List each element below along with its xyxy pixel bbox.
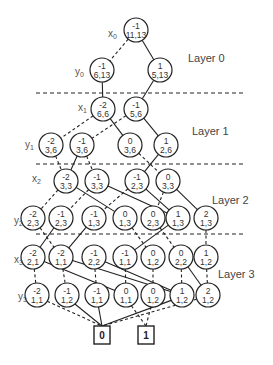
node-value: -1 xyxy=(93,172,101,182)
diagram-node: 21,3 xyxy=(194,206,218,230)
low-edge xyxy=(131,306,146,326)
diagram-node: -23,6 xyxy=(39,133,63,157)
node-value: -1 xyxy=(93,286,101,296)
diagram-node: 11,3 xyxy=(166,206,190,230)
diagram-node: -12,3 xyxy=(125,169,149,193)
high-edge xyxy=(110,119,123,136)
low-edge xyxy=(110,39,128,61)
diagram-node: 03,6 xyxy=(118,133,142,157)
diagram-node: -16,13 xyxy=(90,58,114,82)
node-range: 1,1 xyxy=(31,295,43,305)
node-value: -2 xyxy=(29,209,37,219)
high-edge xyxy=(188,267,201,285)
diagram-node: 15,13 xyxy=(148,58,172,82)
node-value: -2 xyxy=(29,248,37,258)
node-range: 1,1 xyxy=(119,257,131,267)
high-edge xyxy=(145,154,159,171)
node-range: 1,1 xyxy=(91,295,103,305)
diagram-node: -21,1 xyxy=(25,283,49,307)
high-edge xyxy=(69,227,86,248)
node-value: 0 xyxy=(166,172,171,182)
node-value: 0 xyxy=(123,209,128,219)
node-value: -1 xyxy=(132,100,140,110)
diagram-node: -11,2 xyxy=(55,283,79,307)
diagram-node: -11,1 xyxy=(85,283,109,307)
variable-label: y0 xyxy=(75,66,84,78)
decision-diagram: -111,13-16,1315,13-26,6-15,6-23,6-13,603… xyxy=(0,0,273,365)
node-value: -1 xyxy=(98,61,106,71)
node-value: -2 xyxy=(57,248,65,258)
terminal-nodes: 01 xyxy=(94,326,154,344)
svg-text:0: 0 xyxy=(99,330,105,341)
node-range: 3,3 xyxy=(60,181,72,191)
node-value: 2 xyxy=(204,209,209,219)
diagram-node: -22,3 xyxy=(21,206,45,230)
low-edge xyxy=(132,228,146,248)
node-value: 0 xyxy=(151,286,156,296)
node-value: -2 xyxy=(62,172,70,182)
diagram-node: -15,6 xyxy=(124,97,148,121)
diagram-node: 12,6 xyxy=(154,133,178,157)
node-value: 2 xyxy=(206,286,211,296)
diagram-node: -26,6 xyxy=(91,97,115,121)
diagram-node: 21,2 xyxy=(196,283,220,307)
node-range: 3,6 xyxy=(76,145,88,155)
diagram-node: 01,3 xyxy=(113,206,137,230)
node-value: 1 xyxy=(164,136,169,146)
node-range: 2,3 xyxy=(147,218,159,228)
node-range: 1,2 xyxy=(176,295,188,305)
node-value: -2 xyxy=(47,136,55,146)
node-range: 2,2 xyxy=(88,257,100,267)
terminal-1: 1 xyxy=(138,326,154,344)
node-range: 1,3 xyxy=(88,218,100,228)
node-range: 1,2 xyxy=(200,257,212,267)
diagram-node: -21,1 xyxy=(49,245,73,269)
variable-label: x1 xyxy=(78,102,87,114)
node-range: 2,3 xyxy=(55,218,67,228)
node-value: -2 xyxy=(99,100,107,110)
node-value: 1 xyxy=(204,248,209,258)
diagram-node: -22,1 xyxy=(21,245,45,269)
layer-label: Layer 2 xyxy=(212,194,249,206)
low-edge xyxy=(41,190,58,209)
low-edge xyxy=(34,269,35,283)
diagram-node: 01,1 xyxy=(114,283,138,307)
node-value: 1 xyxy=(176,209,181,219)
node-range: 6,13 xyxy=(94,70,111,80)
node-value: -1 xyxy=(78,136,86,146)
node-range: 1,1 xyxy=(120,295,132,305)
node-range: 11,13 xyxy=(126,30,147,40)
node-value: 0 xyxy=(151,209,156,219)
low-edge xyxy=(160,228,174,248)
low-edge xyxy=(56,156,62,170)
low-edge xyxy=(207,269,208,283)
node-range: 6,6 xyxy=(97,109,109,119)
diagram-node: 02,2 xyxy=(169,245,193,269)
diagram-node: -12,2 xyxy=(82,245,106,269)
variable-label: x2 xyxy=(32,173,41,185)
low-edge xyxy=(87,156,93,170)
node-range: 1,2 xyxy=(147,257,159,267)
node-value: 0 xyxy=(128,136,133,146)
low-edge xyxy=(95,269,96,283)
svg-text:1: 1 xyxy=(143,330,149,341)
node-range: 3,6 xyxy=(124,145,136,155)
node-range: 1,1 xyxy=(55,257,67,267)
diagram-node: 11,2 xyxy=(170,283,194,307)
node-value: -1 xyxy=(133,172,141,182)
diagram-node: 11,2 xyxy=(194,245,218,269)
node-value: 0 xyxy=(124,286,129,296)
node-value: 0 xyxy=(151,248,156,258)
node-range: 2,3 xyxy=(131,181,143,191)
high-edge xyxy=(71,156,77,170)
node-value: -1 xyxy=(90,248,98,258)
node-range: 1,2 xyxy=(202,295,214,305)
high-edge xyxy=(142,80,153,99)
node-range: 1,2 xyxy=(61,295,73,305)
diagram-node: 02,3 xyxy=(141,206,165,230)
node-range: 1,3 xyxy=(172,218,184,228)
low-edge xyxy=(63,269,65,283)
diagram-node: -13,3 xyxy=(85,169,109,193)
node-range: 1,3 xyxy=(200,218,212,228)
high-edge xyxy=(142,40,154,59)
